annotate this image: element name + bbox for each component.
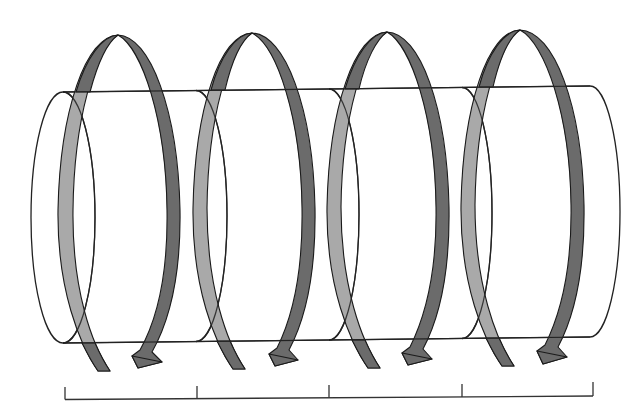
coil-top-left-overlap [345, 32, 387, 89]
coil-turn-2 [193, 33, 315, 369]
coil-turn-1 [58, 35, 180, 371]
cylinder [31, 86, 620, 343]
coil-cylinder-diagram [0, 0, 643, 418]
coil-front-strand [520, 30, 584, 364]
coil-bottom-tail-overlap [352, 340, 380, 368]
coil-top-left-overlap [76, 35, 118, 92]
coil-bottom-tail-overlap [486, 338, 514, 366]
coil-bottom-tail-overlap [217, 341, 245, 369]
coil-bottom-tail-overlap [82, 343, 110, 371]
diagram-canvas: Helical coil wrapped around a segmented … [0, 0, 643, 418]
coil-front-strand [387, 32, 449, 365]
coil-front-strand [252, 33, 315, 366]
cylinder-right-end [590, 86, 620, 337]
coil-turn-3 [327, 32, 449, 368]
scale-bar [65, 382, 593, 400]
coil-top-left-overlap [211, 33, 252, 90]
coil-top-left-overlap [479, 30, 520, 87]
coil-front-strand [118, 35, 180, 368]
